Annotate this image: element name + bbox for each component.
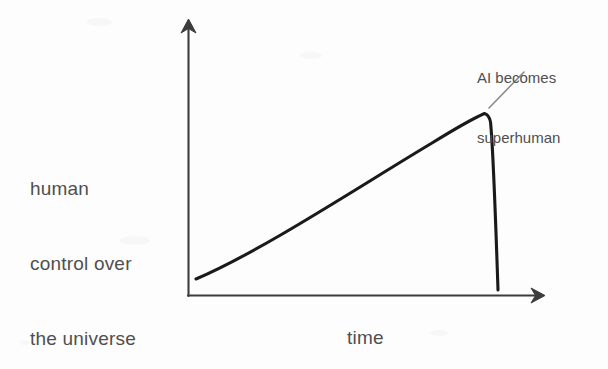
x-axis	[188, 288, 545, 303]
scan-noise-speck	[20, 340, 30, 345]
y-axis	[181, 19, 196, 296]
annotation-line-1: AI becomes	[477, 68, 560, 88]
annotation-line-2: superhuman	[477, 128, 560, 148]
data-curve	[196, 114, 498, 291]
annotation-ai-becomes-superhuman: AI becomes superhuman	[477, 28, 560, 188]
y-axis-label-line-2: control over	[30, 251, 136, 276]
y-axis-label-line-3: the universe	[30, 326, 136, 351]
chart-figure: human control over the universe time AI …	[0, 0, 608, 369]
y-axis-label-line-1: human	[30, 176, 136, 201]
x-axis-label: time	[347, 325, 384, 350]
y-axis-label: human control over the universe	[30, 126, 136, 369]
scan-noise-speck	[86, 18, 112, 26]
scan-noise-speck	[430, 330, 448, 336]
scan-noise-speck	[300, 52, 322, 59]
